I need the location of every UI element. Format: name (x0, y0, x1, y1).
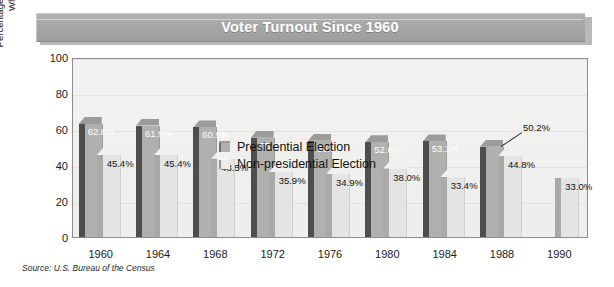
bar-value-label: 33.4% (451, 180, 478, 191)
bar-value-label: 35.9% (279, 175, 306, 186)
plot-area: 62.8%45.4%61.9%45.4%60.9%43.5%55.2%35.9%… (72, 58, 588, 238)
bar-value-label: 33.0% (565, 181, 592, 192)
page-title: Voter Turnout Since 1960 (36, 13, 584, 40)
gridline (73, 59, 587, 60)
legend-item-presidential: Presidential Election (219, 139, 376, 154)
chart-legend: Presidential Election Non-presidential E… (219, 139, 376, 173)
source-note: Source: U.S. Bureau of the Census (22, 263, 155, 273)
x-axis-labels: 196019641968197219761980198419881990 (72, 248, 588, 262)
chart-container: Voter Turnout Since 1960 Percentage of V… (0, 0, 614, 287)
bar-value-label: 62.8% (88, 126, 115, 137)
bar-value-label: 50.2% (523, 122, 550, 133)
leader-line (501, 132, 523, 147)
bar-value-label: 53.1% (432, 143, 459, 154)
chart-title-banner: Voter Turnout Since 1960 (36, 13, 588, 43)
legend-swatch-presidential-icon (219, 141, 230, 152)
legend-item-nonpresidential: Non-presidential Election (219, 156, 376, 171)
bar-value-label: 45.4% (164, 158, 191, 169)
bar-top-face (423, 134, 446, 141)
bar-top-face (555, 171, 578, 178)
bar-value-label: 45.4% (107, 158, 134, 169)
x-tick-label: 1964 (146, 248, 170, 260)
bar-value-label: 61.9% (145, 128, 172, 139)
gridline (73, 95, 587, 96)
legend-label-presidential: Presidential Election (237, 140, 350, 154)
bar-value-label: 44.8% (508, 159, 535, 170)
x-tick-label: 1976 (318, 248, 342, 260)
bar-top-face (193, 120, 216, 127)
legend-swatch-nonpresidential-icon (219, 158, 230, 169)
x-tick-label: 1960 (88, 248, 112, 260)
x-tick-label: 1984 (432, 248, 456, 260)
bar-value-label: 38.0% (393, 172, 420, 183)
y-tick-label: 20 (34, 196, 68, 208)
y-tick-label: 80 (34, 88, 68, 100)
y-tick-label: 60 (34, 124, 68, 136)
bar-top-face (79, 117, 102, 124)
x-tick-label: 1968 (203, 248, 227, 260)
bar-top-face (136, 119, 159, 126)
y-axis-title: Percentage of Voting Age Population Who … (0, 0, 18, 60)
legend-label-nonpresidential: Non-presidential Election (237, 157, 376, 171)
bar-value-label: 52.6% (374, 144, 401, 155)
x-tick-label: 1980 (375, 248, 399, 260)
y-tick-label: 0 (34, 232, 68, 244)
x-tick-label: 1972 (260, 248, 284, 260)
x-tick-label: 1988 (490, 248, 514, 260)
y-tick-label: 40 (34, 160, 68, 172)
y-tick-label: 100 (34, 52, 68, 64)
y-axis-ticks: 100806040200 (28, 58, 68, 238)
bar-value-label: 34.9% (336, 177, 363, 188)
x-tick-label: 1990 (547, 248, 571, 260)
